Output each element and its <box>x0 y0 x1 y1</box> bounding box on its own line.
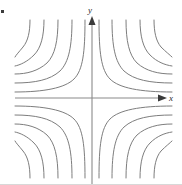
x-axis-label: x <box>168 93 173 103</box>
level-curve <box>15 106 85 178</box>
hyperbola-level-curve-figure: x y <box>0 0 182 185</box>
level-curve <box>15 20 85 92</box>
y-axis-label: y <box>87 5 92 15</box>
y-axis-arrowhead <box>89 16 96 25</box>
level-curve <box>15 20 30 57</box>
y-axis <box>89 16 96 185</box>
level-curve <box>154 141 172 178</box>
curves-quadrant-2 <box>15 20 85 92</box>
x-axis-arrowhead <box>158 95 167 102</box>
level-curve <box>15 141 30 178</box>
level-curve <box>15 20 58 74</box>
level-curve <box>126 20 172 74</box>
level-curve <box>126 124 172 178</box>
level-curve <box>99 20 172 92</box>
level-curve <box>99 106 172 178</box>
level-curve <box>15 124 58 178</box>
corner-registration-mark <box>1 10 4 13</box>
curves-quadrant-4 <box>99 106 172 178</box>
level-curve <box>140 132 172 178</box>
plot-canvas: x y <box>0 0 182 185</box>
level-curve <box>154 20 172 57</box>
curves-quadrant-1 <box>99 20 172 92</box>
level-curve <box>140 20 172 66</box>
x-axis <box>15 95 167 102</box>
curves-quadrant-3 <box>15 106 85 178</box>
